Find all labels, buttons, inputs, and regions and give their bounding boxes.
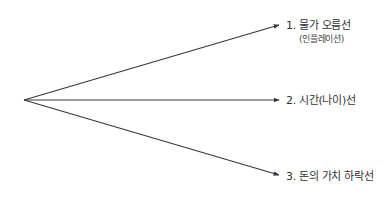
branch-label-money-value: 3. 돈의 가치 하락선 <box>286 170 373 183</box>
branch-sublabel-inflation: (인플레이션) <box>299 34 344 45</box>
arrow-line-money-value <box>24 100 279 175</box>
branch-label-time: 2. 시간(나이)선 <box>286 94 356 107</box>
branch-label-inflation: 1. 물가 오름선 <box>286 19 351 32</box>
arrow-line-inflation <box>24 25 279 100</box>
